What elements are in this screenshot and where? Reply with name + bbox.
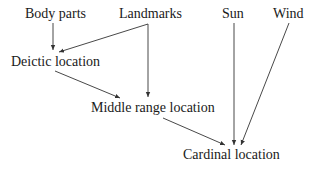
node-middle-range-location: Middle range location xyxy=(91,100,215,116)
node-deictic-location: Deictic location xyxy=(11,54,100,70)
edge-deictic-middle xyxy=(55,71,120,98)
node-cardinal-location: Cardinal location xyxy=(183,147,280,163)
node-landmarks: Landmarks xyxy=(119,6,182,22)
node-body-parts: Body parts xyxy=(25,6,86,22)
diagram-edges xyxy=(0,0,317,169)
node-sun: Sun xyxy=(222,6,244,22)
edge-landmarks-deictic xyxy=(59,24,148,52)
edge-wind-cardinal xyxy=(241,23,289,145)
edge-middle-cardinal xyxy=(163,118,225,145)
flow-diagram: Body parts Landmarks Sun Wind Deictic lo… xyxy=(0,0,317,169)
node-wind: Wind xyxy=(273,6,304,22)
